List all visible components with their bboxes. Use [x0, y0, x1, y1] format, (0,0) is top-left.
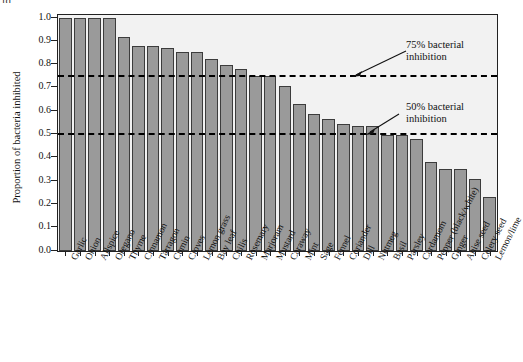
- x-tick-mark: [256, 252, 257, 256]
- x-tick-mark: [212, 252, 213, 256]
- x-tick-mark: [270, 252, 271, 256]
- x-tick-mark: [241, 252, 242, 256]
- x-tick-mark: [329, 252, 330, 256]
- x-tick-mark: [109, 252, 110, 256]
- x-tick-mark: [431, 252, 432, 256]
- x-tick-mark: [138, 252, 139, 256]
- x-tick-mark: [95, 252, 96, 256]
- x-tick-label: Dill: [361, 244, 377, 262]
- x-tick-mark: [490, 252, 491, 256]
- x-tick-mark: [153, 252, 154, 256]
- x-tick-mark: [402, 252, 403, 256]
- x-tick-mark: [226, 252, 227, 256]
- x-tick-mark: [314, 252, 315, 256]
- x-tick-mark: [299, 252, 300, 256]
- x-tick-mark: [460, 252, 461, 256]
- x-tick-mark: [475, 252, 476, 256]
- x-tick-mark: [387, 252, 388, 256]
- x-tick-mark: [285, 252, 286, 256]
- x-tick-mark: [446, 252, 447, 256]
- x-tick-mark: [80, 252, 81, 256]
- x-tick-mark: [373, 252, 374, 256]
- x-tick-mark: [168, 252, 169, 256]
- x-tick-mark: [197, 252, 198, 256]
- x-tick-mark: [182, 252, 183, 256]
- x-tick-mark: [417, 252, 418, 256]
- x-tick-mark: [124, 252, 125, 256]
- x-tick-mark: [343, 252, 344, 256]
- x-tick-mark: [65, 252, 66, 256]
- x-tick-mark: [358, 252, 359, 256]
